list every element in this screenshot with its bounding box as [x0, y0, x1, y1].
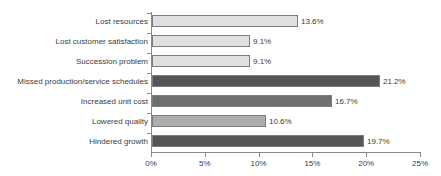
- category-label: Succession problem: [76, 56, 148, 67]
- value-axis-tick-label: 0%: [145, 159, 157, 169]
- bar: [152, 15, 298, 27]
- category-label: Missed production/service schedules: [17, 76, 148, 87]
- bar-value-label: 9.1%: [253, 56, 271, 67]
- value-axis-tick-label: 15%: [304, 159, 320, 169]
- bar-row: Lost customer satisfaction9.1%: [0, 32, 441, 51]
- category-label: Lost resources: [96, 16, 148, 27]
- bar: [152, 135, 364, 147]
- bar-value-label: 9.1%: [253, 36, 271, 47]
- bar: [152, 55, 250, 67]
- category-label: Increased unit cost: [81, 96, 148, 107]
- value-axis-tick: [420, 153, 421, 157]
- category-label: Hindered growth: [89, 136, 148, 147]
- value-axis-tick: [312, 153, 313, 157]
- bar-row: Lowered quality10.6%: [0, 112, 441, 131]
- bar-value-label: 13.6%: [301, 16, 324, 27]
- value-axis-tick-label: 20%: [358, 159, 374, 169]
- category-label: Lowered quality: [92, 116, 148, 127]
- category-label: Lost customer satisfaction: [56, 36, 148, 47]
- bar-value-label: 16.7%: [335, 96, 358, 107]
- bar: [152, 75, 380, 87]
- value-axis-tick: [151, 153, 152, 157]
- value-axis-tick: [366, 153, 367, 157]
- bar-row: Hindered growth19.7%: [0, 132, 441, 151]
- bar-value-label: 10.6%: [269, 116, 292, 127]
- bar-row: Increased unit cost16.7%: [0, 92, 441, 111]
- value-axis-tick: [259, 153, 260, 157]
- bar-row: Succession problem9.1%: [0, 52, 441, 71]
- bar-chart: 0%5%10%15%20%25% Lost resources13.6%Lost…: [0, 0, 441, 176]
- bar: [152, 35, 250, 47]
- bar: [152, 95, 332, 107]
- bar-value-label: 19.7%: [367, 136, 390, 147]
- bar-value-label: 21.2%: [383, 76, 406, 87]
- value-axis-line: [151, 152, 421, 153]
- value-axis-tick-label: 25%: [412, 159, 428, 169]
- value-axis-tick-label: 10%: [251, 159, 267, 169]
- value-axis-tick-label: 5%: [199, 159, 211, 169]
- bar-row: Lost resources13.6%: [0, 12, 441, 31]
- value-axis-tick: [205, 153, 206, 157]
- bar-row: Missed production/service schedules21.2%: [0, 72, 441, 91]
- bar: [152, 115, 266, 127]
